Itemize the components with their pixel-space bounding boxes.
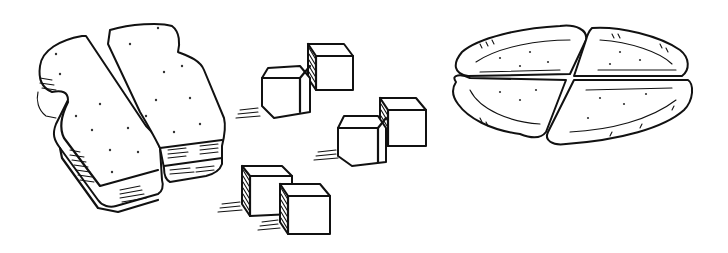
sandwich-illustration xyxy=(37,24,225,212)
cube-pair-1 xyxy=(236,44,353,118)
pie-quarter-top-right xyxy=(574,28,688,76)
cubes-illustration xyxy=(218,44,426,234)
cube-pair-3 xyxy=(218,166,330,234)
pie-illustration xyxy=(453,26,692,145)
illustration-canvas xyxy=(0,0,728,253)
pie-quarter-top-left xyxy=(456,26,586,76)
fractions-illustration xyxy=(0,0,728,253)
cube-pair-2 xyxy=(314,98,426,166)
